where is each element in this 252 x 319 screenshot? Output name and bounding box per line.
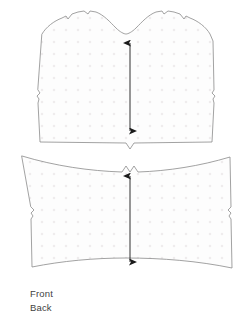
back-piece-outline [22, 156, 232, 268]
legend-item-front: Front [30, 287, 150, 301]
front-piece [37, 11, 215, 149]
pattern-diagram-canvas: Front Back [0, 0, 252, 319]
legend-item-back: Back [30, 301, 150, 315]
front-piece-outline [37, 11, 215, 149]
legend: Front Back [30, 287, 150, 315]
pattern-illustration [0, 0, 252, 319]
back-piece [22, 156, 232, 268]
